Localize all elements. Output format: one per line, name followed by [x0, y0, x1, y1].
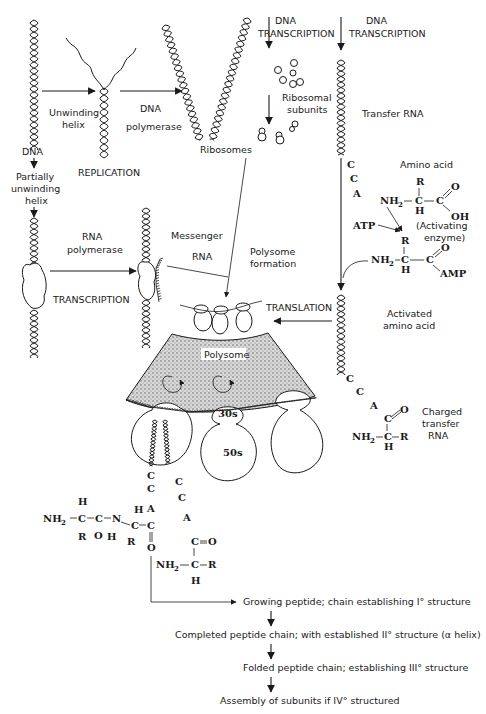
transcription-mrna-tooth	[156, 278, 159, 279]
svg-text:2: 2	[370, 436, 375, 445]
svg-text:NH: NH	[352, 431, 371, 442]
charged-o: O	[400, 404, 409, 415]
polysome-formation-label-2: formation	[250, 258, 296, 269]
transfer-dna-label: DNA	[366, 15, 387, 26]
daughter-helix-right-strand-1	[210, 18, 251, 139]
charged-formula: NH 2 C R H	[352, 431, 409, 452]
svg-text:C: C	[191, 536, 199, 547]
svg-text:C: C	[436, 195, 444, 206]
svg-text:NH: NH	[43, 513, 62, 524]
ribosomes-to-polysome-arrow	[226, 158, 246, 297]
messenger-rna-strand	[156, 258, 163, 302]
peptide-section: C C A C C A H NH 2 C R C O N H H C R C O	[43, 470, 236, 602]
svg-text:H: H	[415, 205, 424, 216]
svg-text:N: N	[112, 513, 121, 524]
transcription-mrna-tooth	[156, 286, 159, 287]
svg-text:R: R	[400, 431, 409, 442]
right-trna-c2: C	[178, 492, 186, 503]
ribosomal-dna-label: DNA	[275, 15, 296, 26]
charged-c: C	[384, 413, 392, 424]
svg-text:H: H	[134, 504, 143, 515]
polysome-formation-label-1: Polysome	[250, 246, 295, 257]
transcription-mrna-tooth	[156, 280, 159, 281]
activating-enzyme-label-1: (Activating	[416, 220, 468, 231]
svg-text:H: H	[191, 575, 200, 586]
ribosome-left	[131, 403, 192, 465]
ribosomal-subunits-label-2: subunits	[287, 104, 327, 115]
transcription-mrna-tooth	[158, 296, 161, 297]
svg-text:O: O	[208, 536, 217, 547]
transcription-mrna-tooth	[158, 293, 161, 294]
unwinding-helix-label-1: Unwinding	[49, 107, 99, 118]
svg-text:O: O	[94, 530, 103, 541]
ribosomal-subunits-label-1: Ribosomal	[282, 92, 332, 103]
atp-label: ATP	[352, 220, 376, 231]
svg-text:2: 2	[389, 259, 394, 268]
trna-cca-a: A	[352, 188, 361, 199]
unwound-strand-right	[104, 48, 136, 90]
svg-text:2: 2	[174, 564, 179, 573]
svg-text:NH: NH	[371, 254, 390, 265]
dna-label: DNA	[22, 146, 43, 157]
amino-acid-label: Amino acid	[400, 159, 453, 170]
dna-polymerase-label-2: polymerase	[126, 121, 182, 132]
partially-unwinding-label-2: unwinding	[11, 183, 60, 194]
partially-unwinding-label-1: Partially	[16, 171, 54, 182]
transfer-rna-label: Transfer RNA	[361, 108, 424, 119]
svg-text:2: 2	[61, 518, 66, 527]
polysome-formation-ribosomes	[180, 301, 262, 334]
svg-text:R: R	[208, 559, 217, 570]
charged-trna-label-3: RNA	[428, 430, 449, 441]
activated-to-trna-arrow	[343, 261, 368, 278]
svg-text:C: C	[131, 520, 139, 531]
svg-text:2: 2	[398, 200, 403, 209]
activated-amino-acid-label-2: amino acid	[383, 320, 435, 331]
polysome-section: Polysome 30s 50s	[126, 301, 323, 481]
subunit-50s-label: 50s	[223, 447, 243, 458]
flow-step-3: Folded peptide chain; establishing III° …	[243, 662, 468, 673]
flow-step-1: Growing peptide; chain establishing I° s…	[243, 596, 471, 607]
messenger-rna-label-1: Messenger	[171, 230, 223, 241]
rna-polymerase-label-1: RNA	[82, 231, 103, 242]
left-trna-a: A	[146, 503, 155, 514]
flow-section: Growing peptide; chain establishing I° s…	[175, 596, 481, 706]
ribosomes-label: Ribosomes	[200, 144, 252, 155]
svg-text:C: C	[95, 513, 103, 524]
transcription-mrna-tooth	[156, 275, 159, 276]
svg-text:H: H	[107, 531, 116, 542]
svg-text:C: C	[78, 513, 86, 524]
transcription-mrna-tooth	[160, 258, 163, 259]
svg-text:R: R	[78, 531, 87, 542]
charged-cca-a: A	[369, 400, 378, 411]
charged-trna-label-2: transfer	[422, 418, 460, 429]
growing-peptide-formula: H NH 2 C R C O N H H C R C O	[43, 496, 156, 553]
charged-cca-c2: C	[356, 386, 364, 397]
svg-text:H: H	[401, 264, 410, 275]
ribosomal-transcription-label: TRANSCRIPTION	[257, 28, 335, 39]
svg-text:O: O	[147, 542, 156, 553]
svg-text:H: H	[384, 441, 393, 452]
trna-cca-c2: C	[350, 173, 358, 184]
rna-polymerase-label-2: polymerase	[67, 244, 123, 255]
daughter-helix-right-strand-0	[210, 18, 250, 141]
ribosomal-section: DNA TRANSCRIPTION Ribosomal subunits	[257, 15, 335, 144]
flow-step-2: Completed peptide chain; with establishe…	[175, 629, 481, 640]
transcription-mrna-tooth	[156, 283, 159, 284]
right-trna-c1: C	[175, 476, 183, 487]
amino-acid-formula: R NH 2 C H C O OH	[380, 176, 469, 222]
transcription-mrna-tooth	[156, 272, 159, 273]
svg-text:O: O	[441, 242, 450, 253]
left-trna-c1: C	[147, 470, 155, 481]
messenger-rna-label-2: RNA	[192, 251, 213, 262]
atp-arrow	[378, 225, 400, 231]
svg-text:O: O	[451, 181, 460, 192]
unwinding-helix-label-2: helix	[62, 119, 85, 130]
flow-step-4: Assembly of subunits if IV° structured	[220, 695, 400, 706]
nh2-to-activated-arrow	[387, 207, 402, 231]
svg-text:NH: NH	[156, 559, 175, 570]
svg-text:R: R	[416, 176, 425, 187]
svg-text:H: H	[78, 496, 87, 507]
svg-text:C: C	[147, 520, 155, 531]
charged-trna-label-1: Charged	[422, 406, 462, 417]
svg-text:R: R	[127, 536, 136, 547]
